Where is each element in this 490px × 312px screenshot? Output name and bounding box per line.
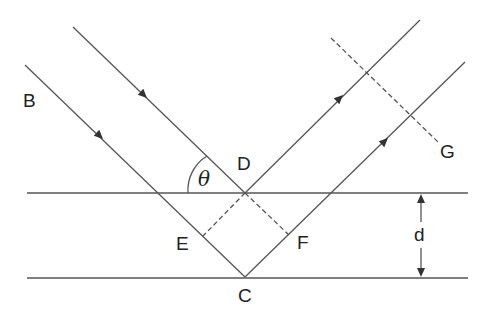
arrow-down-icon [417,268,425,277]
label-theta: θ [198,167,210,191]
arrow-icon [334,92,346,104]
diagram-svg: B D θ E F C G d [0,0,490,312]
arrow-icon [94,130,106,142]
arrow-up-icon [417,194,425,203]
incident-ray-upper [73,27,245,193]
reflected-ray-upper [245,20,420,193]
incident-ray-lower [25,65,245,277]
dashed-wavefront-G [331,38,438,142]
label-F: F [297,232,309,253]
dashed-line-DE [203,193,245,236]
label-G: G [440,141,455,162]
bragg-diagram: B D θ E F C G d [0,0,490,312]
dashed-line-DF [245,193,289,235]
reflected-ray-lower [245,62,465,277]
label-E: E [176,233,189,254]
label-B: B [23,90,36,111]
label-C: C [238,285,252,306]
label-d: d [414,224,425,245]
label-D: D [237,153,251,174]
